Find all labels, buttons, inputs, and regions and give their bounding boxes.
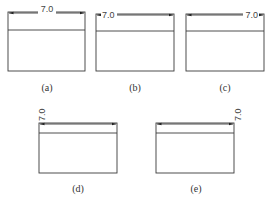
caption-d: (d) [72, 183, 84, 195]
caption-a: (a) [41, 82, 52, 94]
panel-a: 7.0 (a) [8, 4, 85, 94]
dimension-label-b: 7.0 [102, 10, 115, 20]
dimension-label-c: 7.0 [245, 10, 258, 20]
panel-d: 7.0 (d) [37, 108, 117, 195]
caption-b: (b) [129, 82, 141, 94]
caption-e: (e) [190, 183, 201, 195]
caption-c: (c) [219, 82, 230, 94]
panel-c: 7.0 (c) [186, 9, 264, 94]
panel-e: 7.0 (e) [156, 108, 243, 195]
dimension-label-d: 7.0 [37, 108, 47, 121]
dimension-label-a: 7.0 [41, 4, 54, 14]
panel-b: 7.0 (b) [96, 9, 174, 94]
dimension-label-e: 7.0 [233, 108, 243, 121]
dimension-diagram: 7.0 (a) 7.0 (b) 7.0 (c) 7.0 (d) 7.0 (e) [0, 0, 269, 202]
